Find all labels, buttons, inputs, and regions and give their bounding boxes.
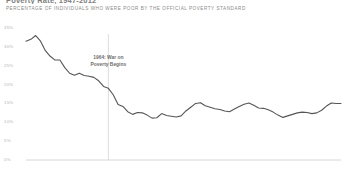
y-axis-tick-label: 30%: [4, 44, 13, 49]
y-axis-tick-label: 20%: [4, 82, 13, 87]
y-axis-tick-label: 5%: [4, 138, 11, 143]
chart-subtitle: PERCENTAGE OF INDIVIDUALS WHO WERE POOR …: [6, 6, 246, 11]
y-axis-tick-label: 15%: [4, 100, 13, 105]
page-title: Poverty Rate, 1947-2012: [6, 0, 97, 4]
chart-page: Poverty Rate, 1947-2012 PERCENTAGE OF IN…: [0, 0, 347, 180]
y-axis-tick-label: 25%: [4, 63, 13, 68]
series-group: [26, 36, 341, 119]
poverty-rate-line: [26, 36, 341, 119]
war-on-poverty-annotation: 1964: War on Poverty Begins: [91, 54, 127, 68]
annotation-line-1: 1964: War on: [91, 54, 127, 61]
y-axis-tick-label: 35%: [4, 25, 13, 30]
line-chart-svg: [0, 14, 347, 180]
y-axis-tick-label: 0%: [4, 157, 11, 162]
annotation-line-2: Poverty Begins: [91, 61, 127, 68]
plot-area: 35%30%25%20%15%10%5%0% 19471950195519601…: [0, 14, 347, 166]
y-axis-tick-label: 10%: [4, 119, 13, 124]
